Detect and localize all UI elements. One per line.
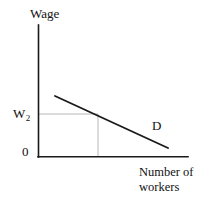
y-axis-label: Wage (30, 7, 59, 20)
demand-curve-label: D (152, 119, 161, 132)
x-axis-label-line2: workers (139, 180, 194, 195)
origin-label: 0 (22, 145, 29, 158)
x-axis-label: Number ofworkers (139, 165, 194, 195)
labor-demand-diagram: Wage W2 0 D Number ofworkers (0, 0, 207, 199)
x-axis-label-line1: Number of (139, 165, 194, 179)
wage-level-subscript: 2 (25, 113, 30, 123)
wage-level-symbol: W (13, 106, 25, 121)
wage-level-label: W2 (13, 107, 30, 123)
